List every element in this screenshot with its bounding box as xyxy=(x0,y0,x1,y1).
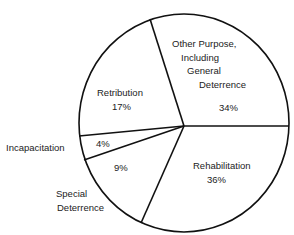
label-rehabilitation-pct: 36% xyxy=(207,173,226,186)
pie-chart xyxy=(0,0,294,235)
label-special-line1: Special xyxy=(56,187,87,200)
label-other-line3: General xyxy=(187,64,221,77)
label-incapacitation: Incapacitation xyxy=(6,141,65,154)
label-other-pct: 34% xyxy=(219,101,238,114)
label-other-line1: Other Purpose, xyxy=(172,37,236,50)
label-retribution: Retribution xyxy=(97,86,143,99)
label-special-line2: Deterrence xyxy=(57,201,104,214)
label-rehabilitation: Rehabilitation xyxy=(193,159,251,172)
label-incapacitation-pct: 4% xyxy=(96,137,110,150)
label-other-line4: Deterrence xyxy=(199,78,246,91)
label-retribution-pct: 17% xyxy=(112,100,131,113)
label-other-line2: Including xyxy=(181,51,219,64)
label-special-pct: 9% xyxy=(114,161,128,174)
